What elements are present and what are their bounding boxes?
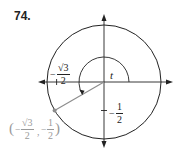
y-axis-up-arrow-icon: [102, 14, 107, 21]
terminal-point: [53, 109, 57, 113]
x-axis-right-arrow-icon: [166, 80, 173, 85]
angle-label: t: [110, 69, 113, 81]
y-axis-down-arrow-icon: [102, 141, 107, 148]
point-coordinate-label: ( − √3 2 , − 1 2 ): [9, 118, 61, 140]
x-axis-left-arrow-icon: [38, 80, 45, 85]
